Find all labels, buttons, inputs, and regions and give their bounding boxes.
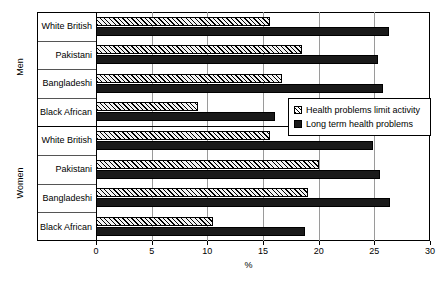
panel-label-women-text: Women xyxy=(15,168,25,199)
legend: Health problems limit activity Long term… xyxy=(288,98,431,136)
row-separator xyxy=(38,184,96,185)
category-label: Pakistani xyxy=(40,50,92,60)
panel-label-men-text: Men xyxy=(15,58,25,76)
x-tick-20 xyxy=(319,241,320,245)
row-separator xyxy=(38,41,96,42)
x-tick-25 xyxy=(374,241,375,245)
category-label: White British xyxy=(40,135,92,145)
panel-label-men: Men xyxy=(0,62,40,72)
legend-label-hatched: Health problems limit activity xyxy=(306,105,420,115)
x-tick-label-10: 10 xyxy=(187,246,227,256)
bar-long-term-health-problems xyxy=(96,170,380,179)
bar-long-term-health-problems xyxy=(96,55,378,64)
category-label: Pakistani xyxy=(40,164,92,174)
legend-swatch-hatched-icon xyxy=(294,106,302,114)
bar-long-term-health-problems xyxy=(96,198,390,207)
x-tick-label-25: 25 xyxy=(354,246,394,256)
legend-item-solid: Long term health problems xyxy=(294,117,425,131)
x-tick-5 xyxy=(152,241,153,245)
bar-health-problems-limit-activity xyxy=(96,217,213,226)
bar-health-problems-limit-activity xyxy=(96,45,302,54)
row-separator xyxy=(38,98,96,99)
category-label: Bangladeshi xyxy=(40,193,92,203)
bar-long-term-health-problems xyxy=(96,227,305,236)
bar-long-term-health-problems xyxy=(96,84,383,93)
x-tick-label-0: 0 xyxy=(76,246,116,256)
row-separator xyxy=(38,69,96,70)
panel-label-women: Women xyxy=(0,178,40,188)
x-tick-label-20: 20 xyxy=(299,246,339,256)
bar-long-term-health-problems xyxy=(96,141,373,150)
bar-health-problems-limit-activity xyxy=(96,131,270,140)
x-tick-label-15: 15 xyxy=(243,246,283,256)
x-tick-label-30: 30 xyxy=(410,246,446,256)
bar-health-problems-limit-activity xyxy=(96,188,308,197)
row-separator xyxy=(38,212,96,213)
legend-swatch-solid-icon xyxy=(294,120,302,128)
x-tick-10 xyxy=(207,241,208,245)
bar-health-problems-limit-activity xyxy=(96,17,270,26)
category-label: White British xyxy=(40,21,92,31)
x-tick-0 xyxy=(96,241,97,245)
bar-health-problems-limit-activity xyxy=(96,102,198,111)
bar-health-problems-limit-activity xyxy=(96,74,282,83)
bar-chart: Men Women White BritishPakistaniBanglade… xyxy=(0,0,446,283)
legend-item-hatched: Health problems limit activity xyxy=(294,103,425,117)
category-label: Black African xyxy=(40,222,92,232)
x-axis-title: % xyxy=(229,260,269,270)
category-label: Black African xyxy=(40,107,92,117)
legend-label-solid: Long term health problems xyxy=(306,119,413,129)
bar-long-term-health-problems xyxy=(96,27,389,36)
x-tick-15 xyxy=(263,241,264,245)
x-tick-label-5: 5 xyxy=(132,246,172,256)
bar-health-problems-limit-activity xyxy=(96,160,319,169)
category-label: Bangladeshi xyxy=(40,78,92,88)
row-separator xyxy=(38,155,96,156)
bar-long-term-health-problems xyxy=(96,112,275,121)
x-tick-30 xyxy=(430,241,431,245)
